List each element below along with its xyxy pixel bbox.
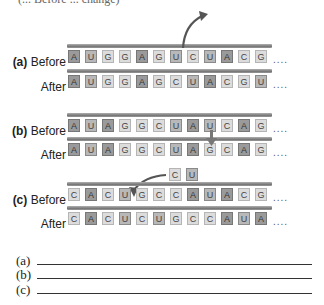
answer-b[interactable]: (b): [16, 267, 31, 283]
base-A: A: [221, 188, 233, 201]
base-G: G: [170, 212, 182, 225]
answer-c-line[interactable]: [37, 293, 312, 294]
base-G: G: [136, 188, 148, 201]
base-A: A: [187, 188, 199, 201]
sequence-c-after: CACUCUGCCAUA: [68, 212, 272, 225]
base-U: U: [119, 212, 131, 225]
ellipsis: ....: [273, 216, 288, 227]
answer-b-label: (b): [16, 267, 31, 282]
base-U: U: [238, 212, 250, 225]
section-c-before-label: (c) Before: [13, 193, 66, 207]
base-C: C: [187, 212, 199, 225]
answer-c[interactable]: (c): [16, 282, 30, 298]
ellipsis: ....: [273, 192, 288, 203]
answer-b-line[interactable]: [37, 278, 312, 279]
base-C: C: [170, 188, 182, 201]
base-C: C: [102, 188, 114, 201]
base-U: U: [119, 188, 131, 201]
base-A: A: [85, 188, 97, 201]
rna-strand: [67, 182, 272, 186]
answer-a-line[interactable]: [37, 264, 312, 265]
rna-strand: [67, 206, 272, 210]
base-A: A: [85, 212, 97, 225]
base-A: A: [221, 212, 233, 225]
base-C: C: [102, 212, 114, 225]
base-U: U: [153, 212, 165, 225]
base-C: C: [136, 212, 148, 225]
insertion-arrow-icon: [0, 0, 324, 305]
base-C: C: [238, 188, 250, 201]
base-C: C: [153, 188, 165, 201]
base-C: C: [204, 212, 216, 225]
base-G: G: [255, 188, 267, 201]
sequence-c-before: CACUGCCAUACG: [68, 188, 272, 201]
answer-a-label: (a): [16, 253, 30, 268]
base-C: C: [68, 212, 80, 225]
base-A: A: [255, 212, 267, 225]
base-U: U: [204, 188, 216, 201]
answer-c-label: (c): [16, 282, 30, 297]
section-c-after-label: After: [41, 217, 66, 231]
base-C: C: [68, 188, 80, 201]
section-c-after: After CACUCUGCCAUA ....: [0, 212, 324, 236]
